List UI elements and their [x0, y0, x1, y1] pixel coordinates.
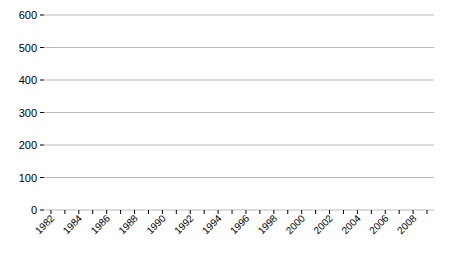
x-axis-tick-label: 2000 — [284, 212, 308, 236]
x-axis-tick-label: 1998 — [256, 212, 280, 236]
y-axis-tick-label: 500 — [19, 42, 37, 54]
x-axis-tick-label: 1988 — [116, 212, 140, 236]
y-axis-tick-label: 100 — [19, 172, 37, 184]
y-axis-tick-label: 600 — [19, 9, 37, 21]
y-axis-tick-label: 200 — [19, 139, 37, 151]
x-axis-ticks — [51, 210, 427, 214]
x-axis-tick-label: 2008 — [395, 212, 419, 236]
chart-canvas: 0100200300400500600 19821984198619881990… — [0, 0, 451, 253]
x-axis-tick-label: 2006 — [367, 212, 391, 236]
x-axis-tick-label: 1992 — [172, 212, 196, 236]
x-axis-tick-label: 2002 — [311, 212, 335, 236]
x-axis-tick-label: 1984 — [61, 212, 85, 236]
x-axis-tick-label: 1990 — [144, 212, 168, 236]
y-axis-tick-label: 0 — [31, 204, 37, 216]
y-axis-tick-label: 400 — [19, 74, 37, 86]
gridlines-group — [44, 15, 434, 210]
x-axis-tick-label: 1994 — [200, 212, 224, 236]
x-axis-tick-label: 1986 — [89, 212, 113, 236]
line-chart: 0100200300400500600 19821984198619881990… — [0, 0, 451, 253]
x-axis-tick-label: 1996 — [228, 212, 252, 236]
x-axis-labels: 1982198419861988199019921994199619982000… — [33, 212, 419, 236]
y-axis-labels: 0100200300400500600 — [19, 9, 44, 216]
y-axis-tick-label: 300 — [19, 107, 37, 119]
x-axis-tick-label: 2004 — [339, 212, 363, 236]
